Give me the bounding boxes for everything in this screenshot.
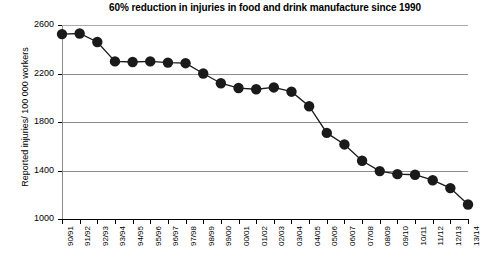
data-point bbox=[180, 58, 190, 68]
data-point bbox=[322, 128, 332, 138]
data-point bbox=[233, 83, 243, 93]
data-point bbox=[145, 56, 155, 66]
data-point bbox=[216, 78, 226, 88]
series-line bbox=[62, 33, 468, 204]
injury-rate-line-chart: 60% reduction in injuries in food and dr… bbox=[0, 0, 483, 258]
data-point bbox=[127, 57, 137, 67]
data-point bbox=[92, 37, 102, 47]
data-point bbox=[251, 84, 261, 94]
data-point bbox=[392, 169, 402, 179]
data-point bbox=[163, 57, 173, 67]
data-point bbox=[110, 56, 120, 66]
data-point bbox=[357, 156, 367, 166]
data-point bbox=[410, 170, 420, 180]
data-point bbox=[269, 82, 279, 92]
data-point bbox=[463, 199, 473, 209]
data-point bbox=[198, 68, 208, 78]
data-point bbox=[74, 28, 84, 38]
data-point bbox=[286, 86, 296, 96]
data-point bbox=[339, 139, 349, 149]
data-series bbox=[0, 0, 483, 258]
data-point bbox=[375, 166, 385, 176]
data-point bbox=[57, 29, 67, 39]
data-point bbox=[428, 175, 438, 185]
data-point bbox=[304, 101, 314, 111]
data-point bbox=[445, 183, 455, 193]
